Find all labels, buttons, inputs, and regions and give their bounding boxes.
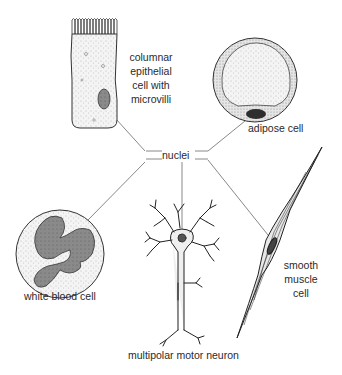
epithelial-nucleus bbox=[98, 89, 110, 109]
smooth-muscle-cell-illustration bbox=[237, 147, 322, 338]
cell-types-diagram: columnar epithelial cell with microvilli… bbox=[0, 0, 342, 375]
leader-lines bbox=[88, 108, 272, 240]
adipose-cell-illustration bbox=[213, 38, 297, 122]
adipose-nucleus bbox=[246, 109, 266, 119]
label-neuron: multipolar motor neuron bbox=[128, 348, 239, 362]
label-adipose-cell: adipose cell bbox=[248, 121, 303, 135]
label-white-blood-cell: white blood cell bbox=[24, 289, 96, 303]
label-nuclei: nuclei bbox=[162, 148, 189, 162]
epithelial-cell-illustration bbox=[71, 19, 117, 129]
label-epithelial-cell: columnar epithelial cell with microvilli bbox=[120, 50, 182, 106]
white-blood-cell-illustration bbox=[16, 210, 104, 298]
label-smooth-muscle-cell: smooth muscle cell bbox=[282, 258, 320, 300]
